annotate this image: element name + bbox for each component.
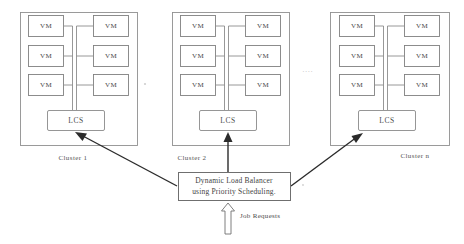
scan-speck-left <box>144 83 146 85</box>
cluster-2-vm-5-label: VM <box>192 81 204 89</box>
cluster-n-vm-2: VM <box>405 16 440 37</box>
cluster-n-vm-2-label: VM <box>416 22 428 30</box>
load-balancer-line-1: Dynamic Load Balancer <box>195 176 273 185</box>
cluster-1-vm-6-label: VM <box>105 81 117 89</box>
cluster-2-vm-6-label: VM <box>257 81 269 89</box>
cluster-1-vm-1: VM <box>29 16 64 37</box>
cluster-1-vm-3: VM <box>29 46 64 67</box>
diagram-canvas: VM VM VM VM VM VM <box>0 0 464 244</box>
cluster-1-vm-3-label: VM <box>40 52 52 60</box>
cluster-1-lcs-label: LCS <box>68 116 83 125</box>
scan-speck-right <box>302 184 304 186</box>
cluster-1-vm-4-label: VM <box>105 52 117 60</box>
cluster-2-vm-2-label: VM <box>257 22 269 30</box>
load-balancer-line-2: using Priority Scheduling. <box>192 187 276 196</box>
cluster-1-caption: Cluster 1 <box>58 154 87 162</box>
cluster-2-vm-1-label: VM <box>192 22 204 30</box>
load-balancer-box[interactable]: Dynamic Load Balancer using Priority Sch… <box>179 173 291 201</box>
cluster-n-caption: Cluster n <box>400 152 429 160</box>
cluster-2-vm-5: VM <box>181 75 216 96</box>
cluster-2-vm-3-label: VM <box>192 52 204 60</box>
arrow-to-cluster-1 <box>75 132 177 186</box>
arrow-to-cluster-n <box>291 133 363 186</box>
cluster-1-vm-6: VM <box>94 75 129 96</box>
cluster-2-vm-4-label: VM <box>257 52 269 60</box>
cluster-1-vm-1-label: VM <box>40 22 52 30</box>
cluster-n-vm-1: VM <box>340 16 375 37</box>
cluster-2-caption: Cluster 2 <box>177 154 206 162</box>
arrow-to-cluster-2 <box>224 132 233 172</box>
cluster-n-vm-1-label: VM <box>351 22 363 30</box>
job-requests-label: Job Requests <box>240 212 280 220</box>
cluster-n-vm-3-label: VM <box>351 52 363 60</box>
cluster-n-vm-4: VM <box>405 46 440 67</box>
cluster-n-lcs: LCS <box>359 111 416 131</box>
cluster-n-vm-5: VM <box>340 75 375 96</box>
cluster-n-vm-4-label: VM <box>416 52 428 60</box>
cluster-n-lcs-label: LCS <box>379 116 394 125</box>
cluster-ellipsis: .... <box>303 66 314 74</box>
cluster-1: VM VM VM VM VM VM <box>21 13 138 162</box>
cluster-n-vm-6: VM <box>405 75 440 96</box>
cluster-2-vm-3: VM <box>181 46 216 67</box>
cluster-1-vm-2-label: VM <box>105 22 117 30</box>
cluster-2-vm-6: VM <box>246 75 281 96</box>
cluster-2-vm-1: VM <box>181 16 216 37</box>
cluster-n-vm-3: VM <box>340 46 375 67</box>
cluster-n: VM VM VM VM VM VM <box>331 13 450 160</box>
cluster-2-lcs: LCS <box>200 111 257 131</box>
cluster-1-vm-5-label: VM <box>40 81 52 89</box>
job-requests-arrow <box>222 203 235 234</box>
cluster-1-vm-4: VM <box>94 46 129 67</box>
cluster-n-vm-6-label: VM <box>416 81 428 89</box>
cluster-1-vm-5: VM <box>29 75 64 96</box>
cluster-1-lcs: LCS <box>48 111 105 131</box>
cluster-2-vm-2: VM <box>246 16 281 37</box>
cluster-2-vm-4: VM <box>246 46 281 67</box>
cluster-1-vm-2: VM <box>94 16 129 37</box>
cluster-n-vm-5-label: VM <box>351 81 363 89</box>
cluster-2-lcs-label: LCS <box>220 116 235 125</box>
